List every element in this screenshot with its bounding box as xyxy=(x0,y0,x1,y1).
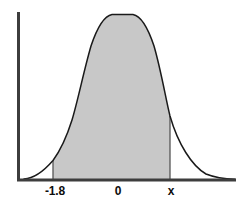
x-axis-tick-label-lower-bound: -1.8 xyxy=(45,184,65,198)
x-axis-tick-label-upper-bound: x xyxy=(168,184,174,198)
shaded-probability-area xyxy=(53,15,170,181)
x-axis-tick-label-center: 0 xyxy=(115,184,121,198)
bell-curve-plot xyxy=(0,0,241,209)
normal-distribution-figure: -1.8 0 x xyxy=(0,0,241,209)
